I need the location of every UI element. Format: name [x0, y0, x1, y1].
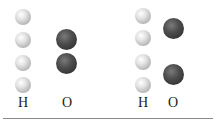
oxygen-atom-sphere [56, 29, 77, 50]
hydrogen-label: H [138, 96, 148, 110]
baseline-divider [3, 118, 213, 119]
oxygen-atom-sphere [163, 64, 184, 85]
hydrogen-atom-sphere [135, 54, 151, 70]
oxygen-atom-sphere [56, 53, 77, 74]
hydrogen-atom-sphere [135, 77, 151, 93]
hydrogen-atom-sphere [135, 30, 151, 46]
oxygen-atom-sphere [163, 18, 184, 39]
hydrogen-atom-sphere [15, 55, 31, 71]
oxygen-label: O [62, 96, 72, 110]
hydrogen-atom-sphere [15, 9, 31, 25]
oxygen-label: O [168, 96, 178, 110]
hydrogen-atom-sphere [135, 8, 151, 24]
hydrogen-label: H [18, 96, 28, 110]
hydrogen-atom-sphere [15, 32, 31, 48]
hydrogen-atom-sphere [15, 77, 31, 93]
